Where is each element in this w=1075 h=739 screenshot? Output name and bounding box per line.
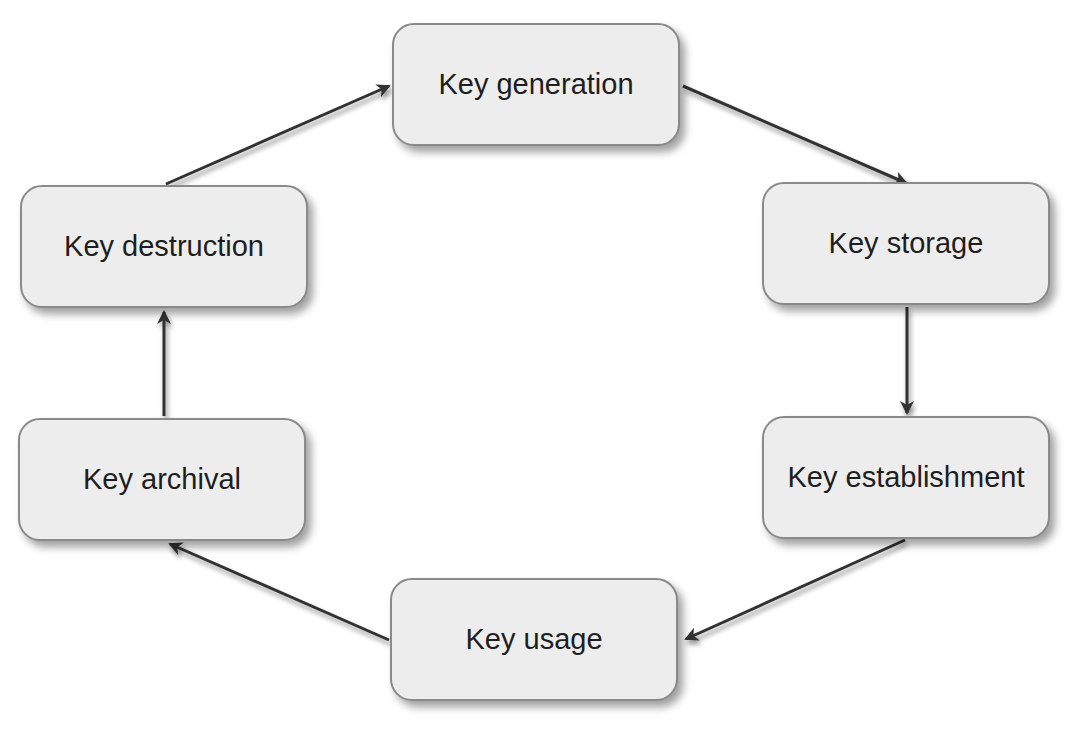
node-key-storage: Key storage <box>762 182 1050 305</box>
arrow-generation-to-storage <box>683 86 906 183</box>
arrow-destruction-to-generation <box>166 86 389 184</box>
node-label: Key establishment <box>788 461 1025 494</box>
node-label: Key generation <box>438 68 633 101</box>
node-label: Key destruction <box>64 230 264 263</box>
arrow-establishment-to-usage <box>686 540 905 639</box>
node-key-destruction: Key destruction <box>20 185 308 308</box>
node-key-generation: Key generation <box>392 23 680 146</box>
node-key-usage: Key usage <box>390 578 678 701</box>
node-key-archival: Key archival <box>18 418 306 541</box>
node-label: Key usage <box>465 623 602 656</box>
node-label: Key archival <box>83 463 241 496</box>
key-lifecycle-diagram: Key generation Key storage Key establish… <box>0 0 1075 739</box>
node-key-establishment: Key establishment <box>762 416 1050 539</box>
node-label: Key storage <box>829 227 984 260</box>
arrow-usage-to-archival <box>170 544 389 640</box>
